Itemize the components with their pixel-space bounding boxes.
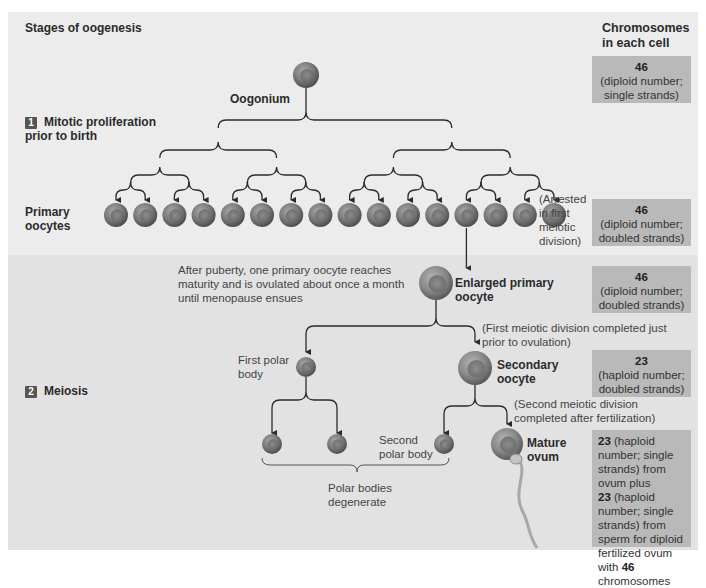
oocyte-arrow [233,182,248,200]
primary-oocyte-cell-nucleus [344,209,356,221]
oogonium-cell [293,62,319,88]
oocyte-arrow [291,182,306,200]
tree-level-3 [481,167,539,183]
arrested-note: (Arrested in first meiotic division) [539,192,594,248]
chromosome-desc: (diploid number; doubled strands) [592,284,691,312]
primary-oocyte-cell-nucleus [315,209,327,221]
first-polar-body-cell-nucleus [302,362,312,372]
primary-oocytes-label: Primary oocytes [25,205,85,233]
primary-oocyte-cell-nucleus [286,209,298,221]
primary-oocyte-cell [279,203,303,227]
oogonium-label: Oogonium [230,92,290,106]
tree-level-2-left [160,142,277,158]
second-meiotic-note: (Second meiotic division completed after… [514,397,684,425]
primary-oocyte-cell-nucleus [140,209,152,221]
chromosome-box-enlarged-oocyte: 46 (diploid number; doubled strands) [592,266,691,313]
polar-body-cell-nucleus [333,439,343,449]
primary-oocyte-cell-nucleus [432,209,444,221]
primary-oocyte-cell [484,203,508,227]
primary-oocyte-cell [308,203,332,227]
tree-level-3 [131,167,189,183]
secondary-oocyte-label: Secondary oocyte [497,358,567,386]
sperm-chromosome-desc: (haploid number; single strands) from sp… [598,491,683,573]
chromosome-count: 46 [592,203,691,217]
tree-level-3 [364,167,422,183]
oogonium-cell-nucleus [300,69,314,83]
secondary-oocyte-cell [458,351,492,385]
primary-oocyte-cell [396,203,420,227]
oocyte-arrow [466,182,481,200]
chromosome-desc: (diploid number; single strands) [592,74,691,102]
polar-split [272,392,337,408]
second-polar-body-label: Second polar body [379,433,439,461]
oocyte-arrow [131,182,146,200]
first-polar-body-label: First polar body [238,353,298,381]
chromosome-box-primary-oocytes: 46 (diploid number; doubled strands) [592,199,691,246]
chromosome-desc: (diploid number; doubled strands) [592,217,691,245]
enlarged-primary-oocyte-cell [419,266,453,300]
chromosome-count: 46 [592,270,691,284]
primary-oocyte-cell-nucleus [403,209,415,221]
primary-oocyte-cell [221,203,245,227]
stage-1-label: 1Mitotic proliferation prior to birth [25,115,175,143]
diagram-title: Stages of oogenesis [25,21,142,35]
chromosome-box-fertilized-ovum: 23 (haploid number; single strands) from… [592,430,691,547]
primary-oocyte-cell-nucleus [490,209,502,221]
oocyte-arrow [116,182,131,200]
first-meiosis-split [306,318,475,334]
primary-oocyte-cell [133,203,157,227]
primary-oocyte-cell-nucleus [228,209,240,221]
stage-2-text: Meiosis [44,384,88,398]
puberty-note: After puberty, one primary oocyte reache… [178,263,418,305]
total-chromosome-desc: chromosomes [598,575,670,587]
chromosomes-header: Chromosomes in each cell [602,21,694,51]
polar-body-cell-nucleus [268,439,278,449]
sperm-tail [517,458,537,548]
oocyte-arrow [423,182,438,200]
oocyte-arrow [481,182,496,200]
primary-oocyte-cell [513,203,537,227]
oocyte-arrow [350,182,365,200]
polar-body-cell [262,434,282,454]
chromosome-count: 46 [592,60,691,74]
primary-oocyte-cell [162,203,186,227]
mature-ovum-cell-nucleus [500,436,517,453]
primary-oocyte-cell-nucleus [257,209,269,221]
stage-2-label: 2Meiosis [25,384,88,398]
chromosome-desc: (haploid number; doubled strands) [592,368,691,396]
enlarged-primary-oocyte-cell-nucleus [429,275,447,293]
secondary-oocyte-cell-nucleus [468,360,486,378]
tree-level-3 [247,167,305,183]
total-chromosome-count: 46 [622,561,635,573]
enlarged-primary-oocyte-label: Enlarged primary oocyte [455,276,555,304]
polar-body-cell [327,434,347,454]
chromosome-box-oogonium: 46 (diploid number; single strands) [592,56,691,103]
oocyte-arrow [306,182,321,200]
tree-level-1 [218,112,452,128]
primary-oocyte-cell [250,203,274,227]
chromosome-box-secondary-oocyte: 23 (haploid number; doubled strands) [592,350,691,397]
mature-ovum-label: Mature ovum [527,436,572,464]
primary-oocyte-cell [104,203,128,227]
stage-2-badge: 2 [25,386,37,398]
primary-oocyte-cell-nucleus [374,209,386,221]
first-meiotic-note: (First meiotic division completed just p… [482,321,672,349]
sperm-chromosome-count: 23 [598,491,611,503]
oocyte-arrow [174,182,189,200]
oocyte-arrow [189,182,204,200]
oocyte-arrow [364,182,379,200]
primary-oocyte-cell-nucleus [520,209,532,221]
stage-1-text: Mitotic proliferation prior to birth [25,115,156,143]
chromosome-count: 23 [592,354,691,368]
first-polar-body-cell [296,357,316,377]
primary-oocyte-cell [192,203,216,227]
oocyte-arrow [408,182,423,200]
oocyte-arrow [247,182,262,200]
primary-oocyte-cell [367,203,391,227]
primary-oocyte-cell-nucleus [111,209,123,221]
primary-oocyte-cell-nucleus [198,209,210,221]
primary-oocyte-cell [454,203,478,227]
polar-bodies-note: Polar bodies degenerate [328,481,398,509]
second-meiosis-split [444,398,507,414]
stage-1-badge: 1 [25,117,37,129]
